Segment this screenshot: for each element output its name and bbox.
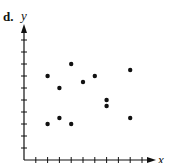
- scatter-plot: d. y x: [0, 0, 169, 163]
- data-point: [93, 74, 97, 78]
- x-axis-arrow-icon: [147, 157, 156, 163]
- data-point: [104, 98, 108, 102]
- x-axis-label: x: [157, 152, 164, 163]
- data-point: [45, 74, 49, 78]
- data-point: [104, 104, 108, 108]
- data-point: [128, 116, 132, 120]
- data-point: [57, 86, 61, 90]
- data-point: [128, 68, 132, 72]
- data-point: [45, 122, 49, 126]
- y-axis-arrow-icon: [21, 24, 27, 33]
- axes: [21, 24, 156, 163]
- data-point: [81, 80, 85, 84]
- data-point: [69, 122, 73, 126]
- data-points: [45, 62, 132, 126]
- panel-label: d.: [3, 9, 13, 24]
- data-point: [69, 62, 73, 66]
- y-axis-label: y: [19, 8, 27, 23]
- data-point: [57, 116, 61, 120]
